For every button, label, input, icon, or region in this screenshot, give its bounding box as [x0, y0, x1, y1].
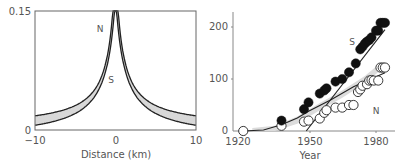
filled-point-s: [380, 18, 389, 27]
right-chart: 200 100 0 1920 1950 1980 Year S N: [209, 12, 395, 161]
x-tick-label-right: 10: [190, 135, 203, 146]
plot-area: [239, 18, 390, 135]
series-s-curve: [35, 11, 196, 125]
annotation-s: S: [349, 37, 355, 47]
x-tick-label-left: −10: [24, 135, 45, 146]
filled-point-s: [322, 84, 331, 93]
x-axis-label: Year: [298, 150, 321, 161]
annotation-n: N: [97, 24, 104, 34]
open-point-n: [239, 126, 248, 135]
filled-point-s: [338, 74, 347, 83]
y-tick-label-200: 200: [209, 21, 228, 32]
open-point-n: [322, 106, 331, 115]
open-point-n: [380, 63, 389, 72]
filled-point-s: [277, 116, 286, 125]
series-n-curve: [35, 11, 196, 116]
filled-point-s: [304, 98, 313, 107]
x-tick-label-1950: 1950: [297, 136, 322, 147]
annotation-n: N: [373, 106, 380, 116]
figure: 0.15 0 −10 0 10 Distance (km) N S 200 10…: [0, 0, 407, 168]
filled-point-s: [344, 68, 353, 77]
x-tick-label-1920: 1920: [225, 136, 250, 147]
filled-point-s: [351, 59, 360, 68]
x-tick-label-1980: 1980: [363, 136, 388, 147]
y-tick-label-top: 0.15: [9, 6, 31, 17]
shaded-band: [35, 11, 196, 125]
x-axis-label: Distance (km): [81, 149, 151, 160]
open-point-n: [304, 116, 313, 125]
open-point-n: [374, 76, 383, 85]
x-tick-label-center: 0: [113, 135, 119, 146]
open-point-n: [349, 100, 358, 109]
left-chart: 0.15 0 −10 0 10 Distance (km) N S: [9, 6, 203, 160]
y-tick-label-100: 100: [209, 73, 228, 84]
y-tick-label-0: 0: [222, 125, 228, 136]
annotation-s: S: [108, 75, 114, 85]
